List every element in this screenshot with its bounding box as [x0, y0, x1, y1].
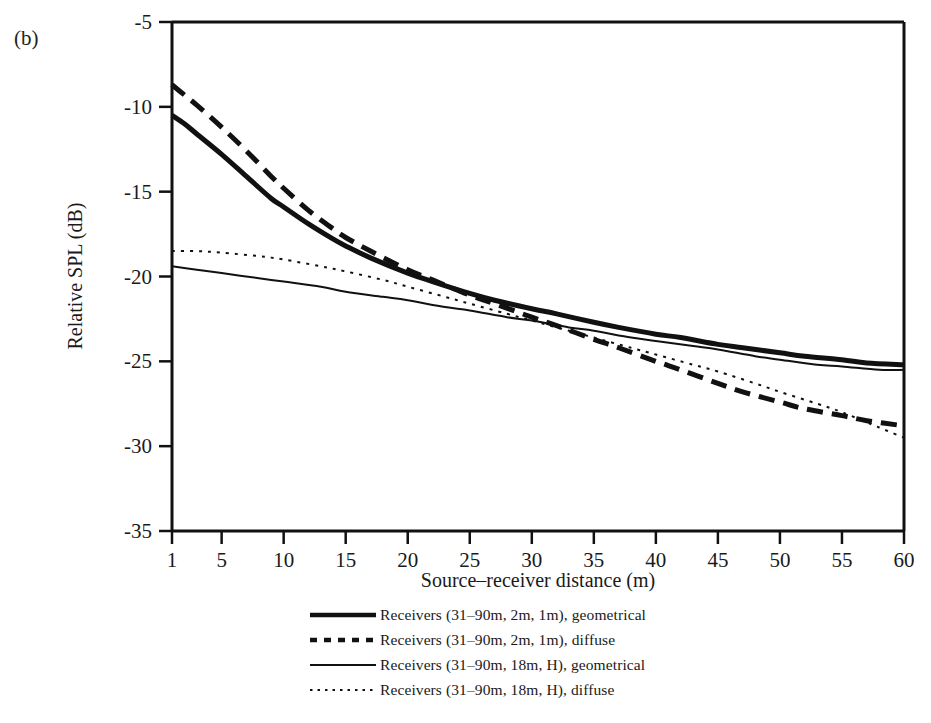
legend-item-label: Receivers (31–90m, 18m, H), geometrical	[380, 656, 645, 674]
y-axis-title: Relative SPL (dB)	[64, 202, 87, 349]
legend-item[interactable]: Receivers (31–90m, 18m, H), diffuse	[308, 677, 738, 702]
y-axis-tick-label: -25	[124, 349, 152, 373]
thin-dotted-line	[308, 683, 380, 697]
legend-item-label: Receivers (31–90m, 18m, H), diffuse	[380, 681, 614, 699]
legend-item[interactable]: Receivers (31–90m, 2m, 1m), geometrical	[308, 602, 738, 627]
thick-dashed-line	[308, 633, 380, 647]
figure-panel: (b) -5-10-15-20-25-30-35 151015202530354…	[0, 0, 931, 723]
legend-item-label: Receivers (31–90m, 2m, 1m), geometrical	[380, 606, 646, 624]
legend-item[interactable]: Receivers (31–90m, 2m, 1m), diffuse	[308, 627, 738, 652]
x-axis-tick-label: 60	[894, 548, 915, 572]
series-line-4	[172, 251, 904, 438]
legend-item-label: Receivers (31–90m, 2m, 1m), diffuse	[380, 631, 615, 649]
y-axis-tick-label: -15	[124, 180, 152, 204]
y-axis-tick-label: -35	[124, 519, 152, 543]
x-axis-tick-label: 55	[831, 548, 852, 572]
x-axis-tick-label: 45	[707, 548, 728, 572]
axis-layer	[172, 22, 904, 531]
x-axis-title: Source–receiver distance (m)	[421, 569, 655, 592]
y-axis-ticks: -5-10-15-20-25-30-35	[124, 10, 172, 543]
x-axis-ticks: 151015202530354045505560	[167, 531, 915, 572]
x-axis-tick-label: 50	[769, 548, 790, 572]
y-axis-tick-label: -20	[124, 265, 152, 289]
series-line-2	[172, 85, 904, 426]
chart-legend: Receivers (31–90m, 2m, 1m), geometricalR…	[308, 602, 738, 702]
x-axis-tick-label: 5	[216, 548, 227, 572]
data-series-layer	[172, 85, 904, 438]
thin-solid-line	[308, 658, 380, 672]
x-axis-tick-label: 1	[167, 548, 178, 572]
legend-item[interactable]: Receivers (31–90m, 18m, H), geometrical	[308, 652, 738, 677]
x-axis-tick-label: 20	[397, 548, 418, 572]
thick-solid-line	[308, 608, 380, 622]
y-axis-tick-label: -30	[124, 434, 152, 458]
series-line-1	[172, 115, 904, 364]
chart-canvas: -5-10-15-20-25-30-35 1510152025303540455…	[0, 0, 931, 600]
x-axis-tick-label: 15	[335, 548, 356, 572]
x-axis-tick-label: 10	[273, 548, 294, 572]
y-axis-tick-label: -10	[124, 95, 152, 119]
y-axis-tick-label: -5	[135, 10, 153, 34]
